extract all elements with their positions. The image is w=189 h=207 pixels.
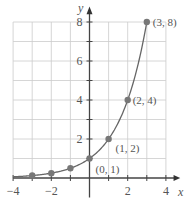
y-tick-label: 6 (77, 54, 83, 68)
x-axis-label: x (177, 185, 184, 199)
ticks: −4−2242468 (7, 15, 169, 198)
x-tick-label: −2 (45, 184, 58, 198)
point-label: (3, 8) (153, 16, 177, 29)
data-point (29, 172, 35, 178)
x-tick-label: −4 (7, 184, 20, 198)
x-tick-label: 2 (125, 184, 131, 198)
y-tick-label: 2 (77, 132, 83, 146)
point-label: (1, 2) (116, 142, 140, 155)
point-labels: (0, 1)(1, 2)(2, 4)(3, 8) (96, 16, 177, 176)
y-tick-label: 8 (77, 15, 83, 29)
data-point (48, 170, 54, 176)
data-point (67, 165, 73, 171)
data-point (86, 155, 92, 161)
point-label: (0, 1) (96, 163, 120, 176)
chart: −4−2242468 (0, 1)(1, 2)(2, 4)(3, 8) x y (0, 0, 189, 207)
y-tick-label: 4 (77, 93, 83, 107)
x-tick-label: 4 (163, 184, 169, 198)
point-label: (2, 4) (133, 94, 157, 107)
data-point (125, 97, 131, 103)
data-point (105, 136, 111, 142)
y-axis-label: y (77, 1, 84, 15)
data-point (144, 19, 150, 25)
